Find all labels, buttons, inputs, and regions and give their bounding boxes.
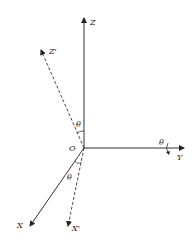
x-axis	[30, 148, 84, 226]
label-x-prime: X'	[71, 224, 80, 233]
label-theta-top: θ	[76, 120, 81, 129]
label-theta-y: θ	[159, 138, 164, 147]
label-y: Y	[177, 153, 183, 162]
theta-arc-bottom	[75, 161, 81, 163]
label-origin: O	[69, 144, 76, 153]
label-x: X	[16, 221, 23, 230]
rotation-diagram: Z Z' θ O θ Y θ X X'	[0, 0, 194, 250]
label-z-prime: Z'	[48, 47, 57, 56]
rotation-arrowhead-icon	[166, 151, 170, 155]
label-theta-bottom: θ	[67, 173, 72, 182]
label-z: Z	[89, 18, 96, 27]
